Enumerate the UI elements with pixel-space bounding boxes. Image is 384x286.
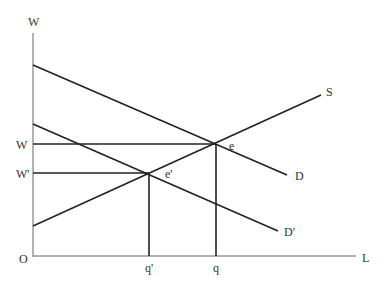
wage-w-label: W — [16, 138, 28, 152]
demand-label-d: D — [295, 169, 304, 183]
equilibrium-e-prime-label: e' — [165, 167, 173, 181]
wage-w-prime-label: W' — [16, 167, 30, 181]
demand-curve-d-prime — [33, 124, 278, 231]
quantity-q-label: q — [213, 261, 219, 275]
demand-label-d-prime: D' — [284, 225, 295, 239]
x-axis-label: L — [362, 251, 369, 265]
labor-market-diagram: W L O W W' q' q e e' S D D' — [0, 0, 384, 286]
y-axis-label: W — [28, 15, 40, 29]
demand-curve-d — [33, 65, 287, 175]
supply-curve-s — [33, 95, 321, 226]
origin-label: O — [19, 252, 28, 266]
equilibrium-e-label: e — [229, 139, 234, 153]
supply-label-s: S — [326, 85, 333, 99]
quantity-q-prime-label: q' — [145, 261, 153, 275]
